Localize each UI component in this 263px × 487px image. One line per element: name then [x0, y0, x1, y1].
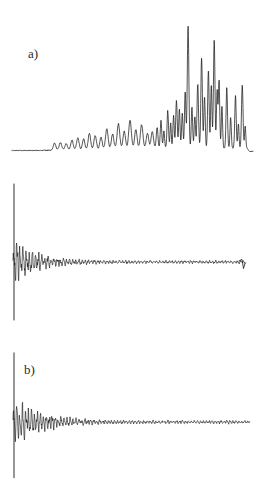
interferogram-line-c [13, 402, 250, 441]
terminal-drop-b [239, 259, 245, 268]
panel-label-a: a) [28, 46, 38, 62]
interferogram-trace-b [0, 170, 263, 330]
spectrum-trace-a [0, 0, 263, 170]
interferogram-trace-c [0, 330, 263, 487]
chart-panel-b: b) [0, 170, 263, 330]
interferogram-line-b [13, 243, 246, 281]
chart-panel-a: a) [0, 0, 263, 170]
spectrum-line-a [12, 26, 253, 151]
figure-container: a) b) c) [0, 0, 263, 487]
chart-panel-c: c) [0, 330, 263, 487]
